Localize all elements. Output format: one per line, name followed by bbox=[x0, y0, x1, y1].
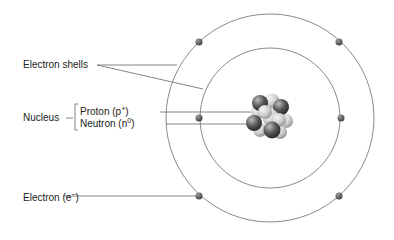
electron-close: ) bbox=[75, 192, 78, 203]
label-electron-shells: Electron shells bbox=[23, 60, 88, 70]
electron-text: Electron (e bbox=[23, 192, 71, 203]
neutron-text: Neutron (n bbox=[80, 118, 127, 129]
proton-text: Proton (p bbox=[80, 106, 121, 117]
electron-dot bbox=[196, 193, 203, 200]
label-electron: Electron (e−) bbox=[23, 191, 79, 203]
electron-dot bbox=[196, 39, 203, 46]
nucleus bbox=[246, 94, 293, 140]
electron-dot bbox=[336, 39, 343, 46]
neutron-close: ) bbox=[131, 118, 134, 129]
proton-close: ) bbox=[125, 106, 128, 117]
electron-dot bbox=[336, 193, 343, 200]
label-nucleus: Nucleus bbox=[23, 113, 59, 123]
label-neutron: Neutron (n0) bbox=[80, 117, 135, 129]
label-proton: Proton (p+) bbox=[80, 105, 129, 117]
electron-dot bbox=[338, 115, 345, 122]
electron-dot bbox=[196, 115, 203, 122]
